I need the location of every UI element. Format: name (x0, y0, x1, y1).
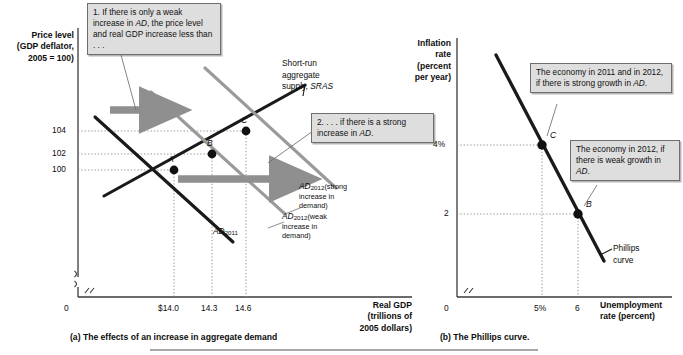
panel-a-caption: (a) The effects of an increase in aggreg… (70, 332, 277, 342)
phillips-label-leader (600, 249, 612, 255)
ad-2012-strong-note1: (strong (324, 182, 347, 191)
phillips-label-line2: curve (613, 255, 640, 267)
figure-root: Price level (GDP deflator, 2005 = 100) 1… (0, 0, 683, 355)
ad-2012-weak-subscript: 2012 (294, 214, 308, 221)
ad-2012-strong-name: AD (299, 181, 311, 191)
callout-b-2-term: AD (576, 166, 588, 176)
panel-a-ytick-100: 100 (52, 164, 66, 174)
panel-b-caption: (b) The Phillips curve. (440, 332, 529, 342)
ad-2012-weak-note3: demand) (282, 231, 327, 240)
ad-2012-weak-line1: AD2012(weak (282, 211, 327, 222)
panel-b-ytick-2: 2 (444, 208, 449, 218)
panel-a-x-axis-title-line2: (trillions of (268, 311, 412, 322)
panel-a-points (170, 127, 251, 175)
panel-a-y-axis-title: Price level (GDP deflator, 2005 = 100) (0, 30, 74, 64)
ad-2011-name: AD (213, 226, 225, 236)
callout-a-1-term: AD (135, 18, 147, 28)
sras-label-line3: supply, SRAS (282, 81, 333, 93)
panel-b-y-axis-title-line4: per year) (385, 72, 451, 83)
ad-2011-subscript: 2011 (225, 229, 238, 236)
panel-a-xtick-14-3: 14.3 (201, 303, 217, 313)
ad-2012-weak-note2: increase in (282, 222, 327, 231)
panel-a-x-axis-title-line1: Real GDP (268, 300, 412, 311)
panel-b-y-axis-title-line1: Inflation (385, 38, 451, 49)
panel-a-y-axis-title-line3: 2005 = 100) (0, 53, 74, 64)
panel-a-point-label-b: B (207, 138, 213, 148)
panel-b-y-axis-title-line3: (percent (385, 61, 451, 72)
panel-b-x-axis-title-line1: Unemployment (600, 300, 683, 311)
ad-2012-strong-subscript: 2012 (311, 184, 325, 191)
curve-ad-2012-weak (151, 92, 285, 214)
phillips-label-line1: Phillips (613, 243, 640, 255)
panel-b-y-axis-title: Inflation rate (percent per year) (385, 38, 451, 83)
panel-b-x-axis-title-line2: rate (percent) (600, 311, 683, 322)
ad-2012-weak-label: AD2012(weak increase in demand) (282, 211, 327, 241)
ad-2012-weak-name: AD (282, 211, 294, 221)
sras-label-line2: aggregate (282, 70, 333, 82)
panel-b-x-axis-title: Unemployment rate (percent) (600, 300, 683, 323)
panel-a-origin-label: 0 (64, 303, 69, 313)
panel-a-xtick-14-0: $14.0 (158, 303, 179, 313)
ad-2012-strong-note3: demand) (299, 201, 347, 210)
sras-abbrev: SRAS (310, 81, 333, 91)
panel-b-ytick-4: 4% (433, 139, 445, 149)
sras-label-line1: Short-run (282, 58, 333, 70)
panel-b-xtick-6: 6 (575, 303, 580, 313)
panel-a-y-axis-title-line1: Price level (0, 30, 74, 41)
panel-b-point-label-b: B (586, 199, 592, 209)
panel-a-xtick-14-6: 14.6 (235, 303, 251, 313)
panel-b-origin-label: 0 (444, 303, 449, 313)
panel-a-x-axis-title-line3: 2005 dollars) (268, 323, 412, 334)
panel-a-point-label-a: A (168, 154, 174, 164)
callout-a-2: 2. . . . if there is a strong increase i… (311, 113, 434, 143)
callout-b-1-term: AD (633, 78, 645, 88)
callout-b-2: The economy in 2012, if there is weak gr… (570, 140, 680, 181)
panel-a-point-label-c: C (241, 115, 247, 125)
sras-curve-label: Short-run aggregate supply, SRAS (282, 58, 333, 93)
panel-b-xtick-5: 5% (534, 303, 546, 313)
panel-a-ytick-102: 102 (52, 148, 66, 158)
ad-2011-label: AD2011 (213, 226, 238, 237)
ad-2012-weak-note1: (weak (307, 212, 326, 221)
phillips-curve-label: Phillips curve (613, 243, 640, 266)
ad-2012-strong-label: AD2012(strong increase in demand) (299, 181, 347, 211)
panel-a-ytick-104: 104 (52, 125, 66, 135)
panel-b-guides (457, 145, 578, 297)
panel-a-x-axis-title: Real GDP (trillions of 2005 dollars) (268, 300, 412, 334)
ad-2012-strong-line1: AD2012(strong (299, 181, 347, 192)
callout-b-1: The economy in 2011 and in 2012, if ther… (530, 63, 672, 93)
panel-a-axes (75, 28, 413, 297)
ad-2012-strong-note2: increase in (299, 192, 347, 201)
panel-b-point-label-c: C (550, 130, 556, 140)
callout-a-2-term: AD (359, 128, 371, 138)
panel-b-y-axis-title-line2: rate (385, 49, 451, 60)
callout-a-1: 1. If there is only a weak increase in A… (87, 3, 221, 55)
panel-a-y-axis-title-line2: (GDP deflator, (0, 41, 74, 52)
